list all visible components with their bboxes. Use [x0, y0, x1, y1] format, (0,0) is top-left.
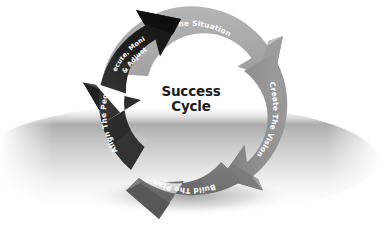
success-cycle-diagram: Assess The Situation Create The Vision B… [0, 0, 381, 236]
cycle-diagram-svg: Assess The Situation Create The Vision B… [0, 0, 381, 236]
ground-shadow [0, 104, 381, 236]
